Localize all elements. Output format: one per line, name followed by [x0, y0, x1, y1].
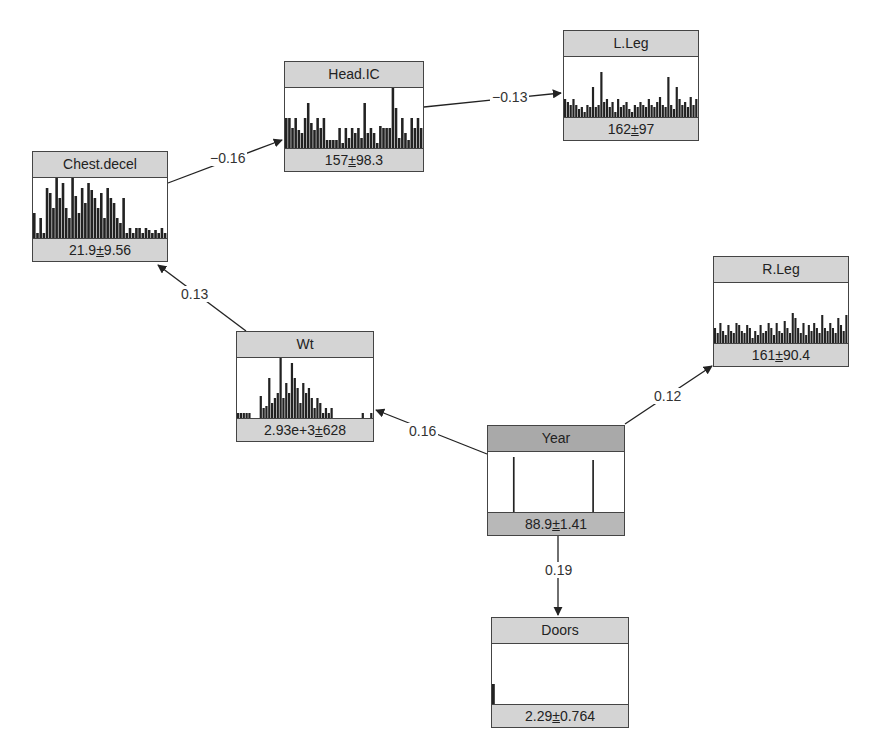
- node-stats: 157±98.3: [285, 149, 423, 171]
- node-doors[interactable]: Doors 2.29±0.764: [491, 617, 629, 728]
- edge-layer: [0, 0, 877, 750]
- node-title: Head.IC: [285, 62, 423, 88]
- node-title: Chest.decel: [33, 152, 167, 178]
- node-chest-decel[interactable]: Chest.decel 21.9±9.56: [32, 151, 168, 262]
- node-l-leg[interactable]: L.Leg 162±97: [563, 30, 699, 141]
- histogram: [237, 358, 373, 419]
- node-stats: 21.9±9.56: [33, 239, 167, 261]
- node-head-ic[interactable]: Head.IC 157±98.3: [284, 61, 424, 172]
- node-stats: 161±90.4: [714, 344, 848, 366]
- node-title: Wt: [237, 332, 373, 358]
- histogram: [285, 88, 423, 149]
- edge-label-chest-decel-head-ic: −0.16: [208, 150, 247, 166]
- node-title: Year: [488, 426, 624, 452]
- node-stats: 2.93e+3±628: [237, 419, 373, 441]
- edge-label-year-r-leg: 0.12: [652, 388, 683, 404]
- edge-label-head-ic-l-leg: −0.13: [490, 89, 529, 105]
- edge-label-year-wt: 0.16: [407, 423, 438, 439]
- node-title: Doors: [492, 618, 628, 644]
- node-stats: 88.9±1.41: [488, 513, 624, 535]
- node-wt[interactable]: Wt 2.93e+3±628: [236, 331, 374, 442]
- node-title: L.Leg: [564, 31, 698, 57]
- edge-label-year-doors: 0.19: [543, 562, 574, 578]
- histogram: [714, 283, 848, 344]
- node-stats: 162±97: [564, 118, 698, 140]
- histogram: [564, 57, 698, 118]
- histogram: [492, 644, 628, 705]
- node-title: R.Leg: [714, 257, 848, 283]
- node-r-leg[interactable]: R.Leg 161±90.4: [713, 256, 849, 367]
- node-stats: 2.29±0.764: [492, 705, 628, 727]
- histogram: [33, 178, 167, 239]
- histogram: [488, 452, 624, 513]
- edge-label-wt-chest-decel: 0.13: [179, 286, 210, 302]
- node-year[interactable]: Year 88.9±1.41: [487, 425, 625, 536]
